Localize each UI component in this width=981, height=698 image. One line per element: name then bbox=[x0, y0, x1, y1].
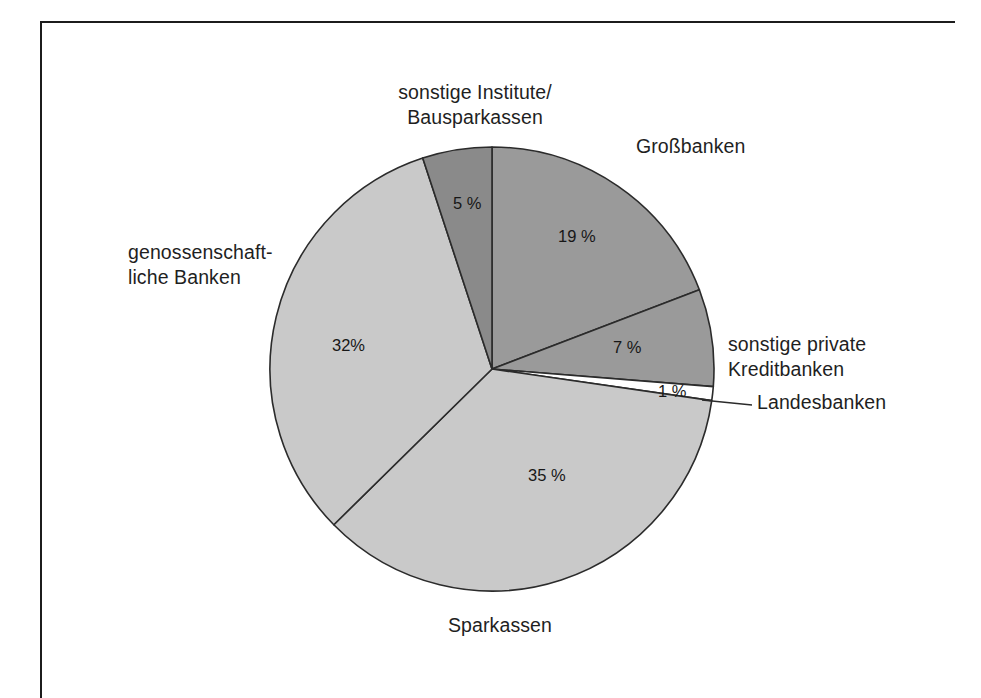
label-genossenschaftliche-banken: genossenschaft- liche Banken bbox=[128, 240, 338, 290]
label-sonstige-private-kreditbanken: sonstige private Kreditbanken bbox=[728, 332, 958, 382]
value-sparkassen: 35 % bbox=[528, 466, 566, 485]
pie-chart: sonstige Institute/ Bausparkassen Großba… bbox=[0, 0, 981, 698]
value-grossbanken: 19 % bbox=[558, 227, 596, 246]
label-sparkassen: Sparkassen bbox=[420, 613, 580, 638]
label-landesbanken: Landesbanken bbox=[757, 390, 957, 415]
label-sonstige-institute-bausparkassen: sonstige Institute/ Bausparkassen bbox=[365, 80, 585, 130]
chart-page: sonstige Institute/ Bausparkassen Großba… bbox=[0, 0, 981, 698]
value-genossenschaftliche-banken: 32% bbox=[332, 336, 365, 355]
value-landesbanken: 1 % bbox=[658, 382, 686, 401]
value-sonstige-institute-bausparkassen: 5 % bbox=[453, 194, 481, 213]
pie-slice-group bbox=[270, 147, 714, 591]
value-sonstige-private-kreditbanken: 7 % bbox=[613, 338, 641, 357]
label-grossbanken: Großbanken bbox=[636, 134, 836, 159]
